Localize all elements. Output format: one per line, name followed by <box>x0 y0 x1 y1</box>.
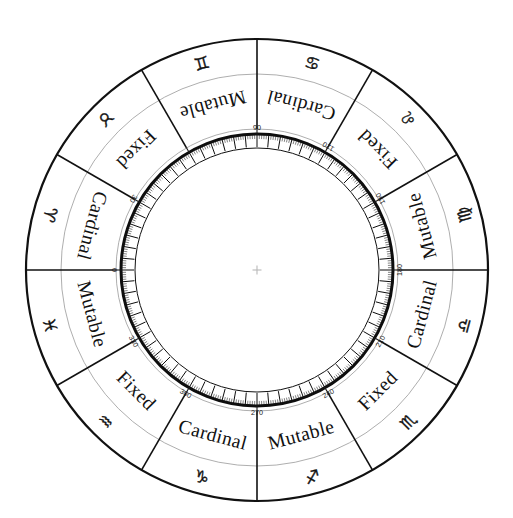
degree-tick <box>122 281 134 282</box>
degree-tick <box>122 258 134 259</box>
degree-tick <box>168 168 171 171</box>
degree-tick <box>373 332 377 334</box>
degree-tick <box>356 181 359 184</box>
degree-tick <box>339 165 342 168</box>
degree-tick <box>136 209 140 211</box>
degree-tick <box>364 202 375 208</box>
aquarius-glyph: ♒ <box>93 409 118 434</box>
degree-tick <box>152 185 155 188</box>
degree-tick <box>316 149 318 153</box>
modality-label-leo: Fixed <box>354 126 402 174</box>
degree-tick <box>152 352 155 355</box>
degree-tick <box>363 190 367 193</box>
degree-tick <box>368 339 372 341</box>
degree-tick <box>174 163 177 166</box>
degree-tick <box>368 198 372 200</box>
degree-tick <box>163 364 166 367</box>
degree-tick <box>181 379 183 383</box>
degree-tick <box>189 153 195 164</box>
pisces-glyph: ♓ <box>38 315 61 335</box>
modality-label-pisces: Mutable <box>73 279 111 350</box>
degree-tick <box>366 194 370 196</box>
degree-tick <box>348 364 351 367</box>
degree-tick <box>168 369 171 372</box>
degree-tick <box>202 146 204 150</box>
degree-tick <box>374 329 378 331</box>
degree-tick <box>336 162 339 166</box>
degree-tick <box>124 246 136 248</box>
degree-tick <box>299 143 303 155</box>
degree-tick <box>135 327 139 329</box>
degree-tick <box>353 359 356 362</box>
degree-tick <box>136 329 140 331</box>
degree-tick <box>339 372 342 375</box>
degree-tick <box>334 376 337 380</box>
degree-tick <box>200 381 205 392</box>
degree-tick <box>346 171 349 174</box>
degree-tick <box>156 179 159 182</box>
degree-tick <box>141 200 145 202</box>
degree-tick <box>140 202 151 208</box>
degree-tick <box>319 377 325 388</box>
cancer-glyph: ♋ <box>302 51 322 74</box>
gemini-glyph: ♊ <box>192 51 212 74</box>
degree-tick <box>336 375 339 379</box>
degree-tick <box>330 158 332 162</box>
degree-tick <box>158 178 161 181</box>
degree-tick <box>364 332 375 338</box>
degree-tick <box>299 386 303 398</box>
degree-tick <box>196 149 198 153</box>
degree-tick <box>245 393 246 405</box>
degree-tick <box>155 181 158 184</box>
degree-tick <box>373 206 377 208</box>
degree-tick <box>134 213 145 218</box>
degree-tick <box>363 347 367 350</box>
center-crosshair <box>253 266 262 275</box>
degree-tick <box>165 171 168 174</box>
modality-label-virgo: Mutable <box>403 190 441 261</box>
degree-tick <box>338 163 341 166</box>
degree-tick <box>351 361 354 364</box>
degree-tick <box>351 176 354 179</box>
degree-tick <box>145 194 149 196</box>
degree-tick <box>310 390 312 394</box>
degree-tick <box>134 322 145 327</box>
degree-tick <box>193 150 195 154</box>
degree-tick <box>202 390 204 394</box>
degree-tick <box>198 388 200 392</box>
modality-label-gemini: Mutable <box>177 86 248 124</box>
degree-tick <box>324 382 326 386</box>
degree-tick <box>139 204 143 206</box>
degree-tick <box>181 158 183 162</box>
degree-tick <box>158 359 161 362</box>
degree-tick <box>189 377 195 388</box>
degree-tick <box>309 381 314 392</box>
degree-tick <box>319 386 321 390</box>
degree-tick <box>338 373 341 376</box>
degree-tick <box>319 150 321 154</box>
degree-tick <box>369 200 373 202</box>
degree-tick <box>172 372 175 375</box>
degree-tick <box>368 322 379 327</box>
degree-tick <box>278 137 280 149</box>
degree-tick <box>150 187 153 190</box>
degree-tick <box>211 386 215 398</box>
modality-label-aquarius: Fixed <box>113 367 161 415</box>
degree-tick <box>183 380 185 384</box>
degree-tick <box>310 146 312 150</box>
degree-tick <box>366 343 370 345</box>
degree-tick <box>211 143 215 155</box>
degree-tick <box>354 358 357 361</box>
degree-tick <box>367 196 371 198</box>
degree-tick <box>143 196 147 198</box>
degree-tick <box>156 358 159 361</box>
degree-tick <box>145 343 149 345</box>
degree-tick <box>135 211 139 213</box>
degree-tick <box>196 387 198 391</box>
degree-tick <box>372 204 376 206</box>
degree-tick <box>160 361 163 364</box>
degree-tick <box>319 153 325 164</box>
degree-tick <box>314 148 316 152</box>
degree-tick <box>150 351 153 354</box>
degree-tick <box>166 169 169 172</box>
